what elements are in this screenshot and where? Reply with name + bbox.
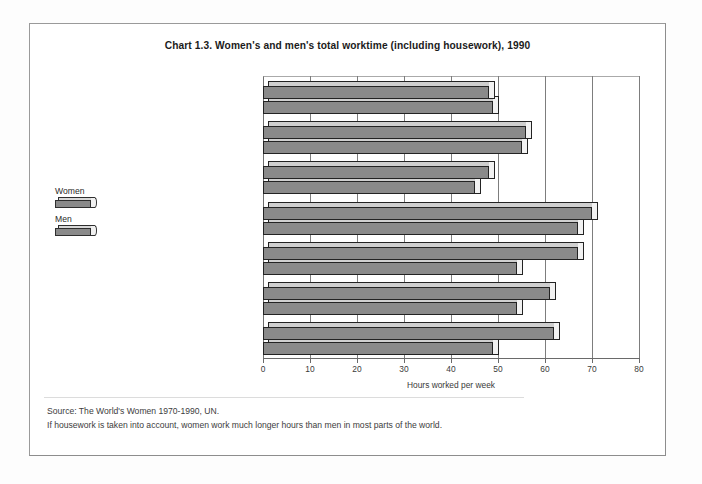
tick-label-20: 20 xyxy=(352,364,361,374)
bar-front-face xyxy=(263,287,550,300)
tick-mark-50 xyxy=(498,358,499,363)
scanned-page: Chart 1.3. Women's and men's total workt… xyxy=(0,0,702,484)
bar-side-face xyxy=(526,121,532,139)
bar-women-5 xyxy=(263,282,550,295)
legend-label-women: Women xyxy=(55,186,125,196)
bar-women-4 xyxy=(263,242,578,255)
bar-women-1 xyxy=(263,121,526,134)
source-text: Source: The World's Women 1970-1990, UN. xyxy=(47,404,647,418)
bar-side-face xyxy=(489,81,495,99)
legend-label-men: Men xyxy=(55,214,125,224)
bar-front-face xyxy=(263,262,517,275)
tick-label-70: 70 xyxy=(587,364,596,374)
bar-front-face xyxy=(263,141,522,154)
swatch-front-face xyxy=(55,228,91,236)
tick-label-50: 50 xyxy=(493,364,502,374)
bar-side-face xyxy=(592,202,598,220)
bar-side-face xyxy=(550,282,556,300)
bar-front-face xyxy=(263,126,526,139)
legend-item-men: Men xyxy=(55,214,125,236)
tick-mark-30 xyxy=(404,358,405,363)
bar-women-6 xyxy=(263,322,554,335)
bar-front-face xyxy=(263,101,493,114)
tick-mark-80 xyxy=(639,358,640,363)
tick-label-10: 10 xyxy=(305,364,314,374)
bar-front-face xyxy=(263,181,475,194)
chart-title: Chart 1.3. Women's and men's total workt… xyxy=(29,40,666,51)
tick-label-40: 40 xyxy=(446,364,455,374)
legend-item-women: Women xyxy=(55,186,125,208)
bar-side-face xyxy=(578,242,584,260)
bar-side-face xyxy=(489,161,495,179)
tick-mark-70 xyxy=(592,358,593,363)
bar-front-face xyxy=(263,327,554,340)
tick-mark-10 xyxy=(310,358,311,363)
tick-label-0: 0 xyxy=(261,364,266,374)
bar-front-face xyxy=(263,247,578,260)
legend-swatch-men xyxy=(55,225,97,236)
bar-women-3 xyxy=(263,202,592,215)
tick-label-60: 60 xyxy=(540,364,549,374)
tick-mark-60 xyxy=(545,358,546,363)
swatch-side-face xyxy=(91,225,97,236)
tick-mark-20 xyxy=(357,358,358,363)
tick-mark-0 xyxy=(263,358,264,363)
legend-swatch-women xyxy=(55,197,97,208)
note-text: If housework is taken into account, wome… xyxy=(47,418,647,432)
tick-label-80: 80 xyxy=(634,364,643,374)
bar-front-face xyxy=(263,302,517,315)
bar-front-face xyxy=(263,166,489,179)
chart-legend: Women Men xyxy=(55,186,125,242)
bar-front-face xyxy=(263,342,493,355)
tick-label-30: 30 xyxy=(399,364,408,374)
footer-notes: Source: The World's Women 1970-1990, UN.… xyxy=(47,404,647,432)
bar-front-face xyxy=(263,222,578,235)
tick-mark-40 xyxy=(451,358,452,363)
bar-women-2 xyxy=(263,161,489,174)
bar-side-face xyxy=(554,322,560,340)
bar-front-face xyxy=(263,86,489,99)
bar-women-0 xyxy=(263,81,489,94)
bar-front-face xyxy=(263,207,592,220)
plot-area: 01020304050607080 North America/Australi… xyxy=(263,76,639,358)
swatch-front-face xyxy=(55,200,91,208)
swatch-side-face xyxy=(91,197,97,208)
gridline-80 xyxy=(639,76,640,358)
footer-divider xyxy=(44,397,524,398)
x-axis-title: Hours worked per week xyxy=(263,380,639,390)
